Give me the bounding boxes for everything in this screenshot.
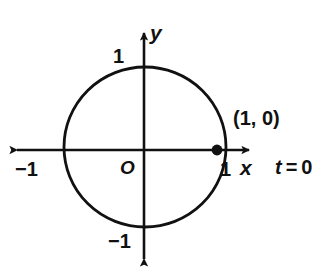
unit-circle-figure: 1 −1 −1 1 O y x (1, 0) t=0 — [0, 0, 324, 276]
x-axis-tick-label-negative-one: −1 — [15, 159, 38, 179]
y-axis-label: y — [150, 22, 162, 43]
x-axis-label: x — [240, 157, 252, 178]
x-axis-tick-label-positive-one: 1 — [220, 159, 231, 179]
parameter-value: 0 — [301, 156, 312, 178]
parameter-symbol: t — [275, 156, 282, 178]
y-axis-tick-label-positive-one: 1 — [113, 46, 124, 66]
parameter-annotation: t=0 — [275, 157, 312, 177]
point-coordinate-label: (1, 0) — [233, 108, 280, 128]
y-axis-tick-label-negative-one: −1 — [108, 231, 131, 251]
figure-canvas — [0, 0, 324, 276]
origin-label: O — [120, 158, 135, 177]
point-marker-1-0 — [212, 145, 223, 156]
parameter-equals-sign: = — [286, 156, 298, 178]
